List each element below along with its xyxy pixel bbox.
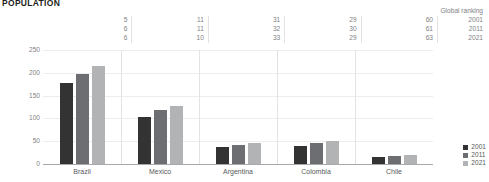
y-axis-tick-label: 200 — [14, 70, 40, 76]
legend-swatch-icon — [463, 145, 468, 150]
ranking-cell: 10 — [132, 34, 208, 43]
bar-group: Argentina — [199, 50, 277, 164]
bar[interactable] — [310, 143, 323, 164]
x-axis-line — [43, 164, 433, 165]
ranking-cell: 61 — [362, 25, 438, 34]
bar-group: Colombia — [277, 50, 355, 164]
ranking-cell: 60 — [362, 16, 438, 25]
bars — [277, 50, 355, 164]
bar[interactable] — [232, 145, 245, 164]
bar[interactable] — [138, 117, 151, 164]
global-ranking-table: Global ranking 5 11 31 29 60 2001 6 11 3… — [56, 7, 484, 51]
ranking-year-label: 2011 — [438, 25, 484, 34]
ranking-cell: 31 — [209, 16, 285, 25]
legend-label: 2011 — [471, 152, 485, 158]
legend-item[interactable]: 2021 — [463, 160, 486, 166]
bar-group: Chile — [355, 50, 433, 164]
bars — [121, 50, 199, 164]
ranking-row-2001: 5 11 31 29 60 2001 — [56, 16, 484, 25]
y-axis-tick-label: 250 — [14, 47, 40, 53]
bar[interactable] — [76, 74, 89, 164]
chart-root: POPULATION Global ranking 5 11 31 29 60 … — [0, 0, 489, 182]
ranking-year-label: 2001 — [438, 16, 484, 25]
ranking-cell: 6 — [56, 25, 132, 34]
y-axis-tick-label: 50 — [14, 138, 40, 144]
ranking-cell: 29 — [285, 16, 361, 25]
bar[interactable] — [60, 83, 73, 164]
ranking-row-2011: 6 11 32 30 61 2011 — [56, 25, 484, 34]
bar[interactable] — [92, 66, 105, 164]
legend-label: 2001 — [471, 144, 486, 150]
ranking-cell: 5 — [56, 16, 132, 25]
bar[interactable] — [326, 141, 339, 164]
x-axis-category-label: Chile — [355, 168, 433, 175]
bars — [43, 50, 121, 164]
y-axis-tick-label: 0 — [14, 161, 40, 167]
bar[interactable] — [404, 155, 417, 164]
ranking-cell: 32 — [209, 25, 285, 34]
bar[interactable] — [388, 156, 401, 164]
ranking-row-2021: 6 10 33 29 63 2021 — [56, 34, 484, 43]
bar[interactable] — [372, 157, 385, 164]
x-axis-category-label: Argentina — [199, 168, 277, 175]
bar-group: Mexico — [121, 50, 199, 164]
x-axis-category-label: Colombia — [277, 168, 355, 175]
ranking-cell: 63 — [362, 34, 438, 43]
legend-item[interactable]: 2001 — [463, 144, 486, 150]
bars — [199, 50, 277, 164]
ranking-cell: 30 — [285, 25, 361, 34]
bars — [355, 50, 433, 164]
ranking-cell: 6 — [56, 34, 132, 43]
y-axis-tick-label: 150 — [14, 93, 40, 99]
ranking-cell: 11 — [132, 25, 208, 34]
plot-area: Millions 250200150100500 BrazilMexicoArg… — [0, 50, 489, 182]
ranking-cell: 33 — [209, 34, 285, 43]
legend-label: 2021 — [471, 160, 486, 166]
chart-legend: 200120112021 — [463, 144, 486, 166]
legend-swatch-icon — [463, 161, 468, 166]
bar[interactable] — [170, 106, 183, 164]
bar-group: Brazil — [43, 50, 121, 164]
ranking-cell: 11 — [132, 16, 208, 25]
x-axis-category-label: Brazil — [43, 168, 121, 175]
bar[interactable] — [248, 143, 261, 164]
x-axis-category-label: Mexico — [121, 168, 199, 175]
legend-item[interactable]: 2011 — [463, 152, 486, 158]
y-axis-tick-label: 100 — [14, 115, 40, 121]
bar-groups: BrazilMexicoArgentinaColombiaChile — [43, 50, 433, 164]
bar[interactable] — [216, 147, 229, 164]
legend-swatch-icon — [463, 153, 468, 158]
bar[interactable] — [154, 110, 167, 164]
bar[interactable] — [294, 146, 307, 164]
ranking-year-label: 2021 — [438, 34, 484, 43]
page-title: POPULATION — [2, 0, 60, 8]
ranking-cell: 29 — [285, 34, 361, 43]
global-ranking-header: Global ranking — [440, 7, 483, 14]
